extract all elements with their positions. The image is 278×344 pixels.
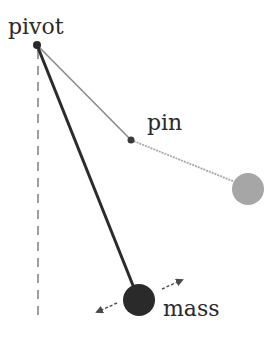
motion-arrow-left-icon — [97, 303, 117, 312]
motion-arrow-right-icon — [162, 280, 182, 289]
mass-bob — [123, 284, 155, 316]
swung-mass-bob — [232, 173, 264, 205]
pivot-point — [33, 41, 41, 49]
pivot-to-pin-rod — [37, 45, 131, 140]
pin-point — [128, 137, 135, 144]
pin-label: pin — [147, 112, 182, 134]
mass-label: mass — [163, 298, 220, 320]
pendulum-diagram — [0, 0, 278, 344]
pivot-to-mass-rod — [37, 45, 134, 288]
pin-to-swung-mass-rod — [131, 140, 240, 184]
pivot-label: pivot — [8, 16, 64, 38]
